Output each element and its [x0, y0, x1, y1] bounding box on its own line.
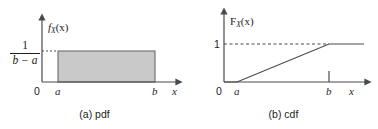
- cdf-panel: FX(x) 1 0 a b x (b) cdf: [189, 0, 378, 129]
- cdf-tick-a: a: [234, 86, 240, 97]
- pdf-tick-b: b: [152, 86, 158, 97]
- pdf-y-axis-label-subscript: X: [51, 26, 56, 35]
- cdf-y-axis-label: FX(x): [230, 16, 254, 27]
- cdf-tick-b: b: [326, 86, 332, 97]
- pdf-y-axis-label: fX(x): [48, 22, 68, 33]
- cdf-x-axis-label: x: [349, 86, 354, 97]
- pdf-caption: (a) pdf: [0, 108, 189, 120]
- cdf-y-axis-label-arg: (x): [241, 15, 254, 27]
- cdf-curve: [224, 44, 364, 82]
- pdf-panel: fX(x) 1 b − a 0 a b x (a) pdf: [0, 0, 189, 129]
- pdf-shaded-region: [58, 51, 155, 82]
- cdf-tick-one: 1: [214, 39, 220, 50]
- uniform-distribution-figure: fX(x) 1 b − a 0 a b x (a) pdf: [0, 0, 378, 129]
- cdf-caption: (b) cdf: [189, 108, 378, 120]
- pdf-height-value: 1 b − a: [10, 40, 40, 66]
- cdf-y-axis-label-subscript: X: [236, 20, 241, 29]
- pdf-tick-a: a: [55, 86, 61, 97]
- cdf-tick-zero: 0: [216, 86, 222, 97]
- pdf-height-numerator: 1: [10, 40, 40, 53]
- pdf-height-denominator: b − a: [10, 54, 40, 67]
- pdf-y-axis-label-arg: (x): [56, 21, 69, 33]
- pdf-x-axis-label: x: [172, 86, 177, 97]
- pdf-tick-zero: 0: [34, 86, 40, 97]
